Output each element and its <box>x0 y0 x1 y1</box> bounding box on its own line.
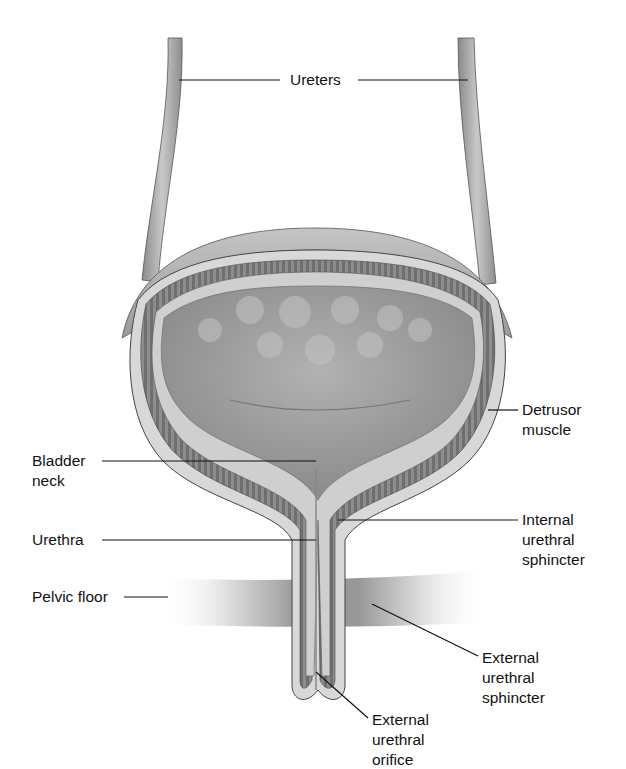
bladder <box>122 228 512 699</box>
label-ureters: Ureters <box>290 70 341 90</box>
label-detrusor-muscle: Detrusor muscle <box>522 400 581 440</box>
label-external-urethral-sphincter: External urethral sphincter <box>482 648 545 708</box>
label-urethra: Urethra <box>32 530 84 550</box>
label-internal-urethral-sphincter: Internal urethral sphincter <box>522 510 585 570</box>
label-pelvic-floor: Pelvic floor <box>32 587 108 607</box>
label-bladder-neck: Bladder neck <box>32 451 85 491</box>
label-external-urethral-orifice: External urethral orifice <box>372 710 429 769</box>
